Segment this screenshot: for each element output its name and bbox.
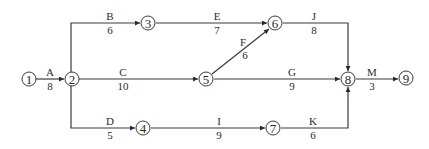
network-diagram: A 8 B 6 C 10 D 5 E 7 F 6 G 9 I 9 J 8 K 6…: [0, 0, 429, 149]
edge-d: [71, 86, 135, 128]
node-6: 6: [268, 16, 282, 31]
node-7: 7: [266, 121, 280, 136]
activity-name-b: B: [106, 10, 113, 22]
activity-name-a: A: [46, 66, 54, 78]
node-label-2: 2: [69, 72, 76, 87]
node-9: 9: [399, 71, 413, 86]
activity-duration-f: 6: [242, 49, 248, 61]
activity-duration-i: 9: [216, 129, 222, 141]
node-label-6: 6: [272, 16, 279, 31]
node-1: 1: [22, 72, 36, 87]
activity-name-k: K: [309, 115, 317, 127]
node-2: 2: [65, 72, 79, 87]
activity-name-j: J: [312, 10, 317, 22]
activity-duration-c: 10: [118, 80, 130, 92]
activity-duration-b: 6: [107, 24, 113, 36]
node-8: 8: [341, 72, 355, 87]
node-label-8: 8: [345, 72, 352, 87]
node-label-5: 5: [203, 72, 210, 87]
activity-name-m: M: [367, 66, 377, 78]
node-3: 3: [141, 16, 155, 31]
edge-b: [71, 23, 140, 72]
activity-duration-g: 9: [289, 80, 295, 92]
activity-name-g: G: [288, 66, 296, 78]
activity-duration-j: 8: [311, 24, 317, 36]
activity-name-c: C: [119, 66, 126, 78]
activity-name-i: I: [217, 115, 221, 127]
node-label-4: 4: [140, 121, 147, 136]
node-label-9: 9: [403, 71, 410, 86]
activity-duration-m: 3: [369, 80, 375, 92]
node-5: 5: [199, 72, 213, 87]
node-label-7: 7: [270, 121, 277, 136]
node-label-1: 1: [26, 72, 33, 87]
activity-name-d: D: [106, 115, 114, 127]
activity-name-e: E: [214, 10, 221, 22]
activity-name-f: F: [240, 36, 246, 48]
activity-duration-d: 5: [107, 129, 113, 141]
node-4: 4: [136, 121, 150, 136]
node-label-3: 3: [145, 16, 152, 31]
activity-duration-k: 6: [310, 129, 316, 141]
activity-duration-e: 7: [214, 24, 220, 36]
activity-duration-a: 8: [47, 80, 53, 92]
